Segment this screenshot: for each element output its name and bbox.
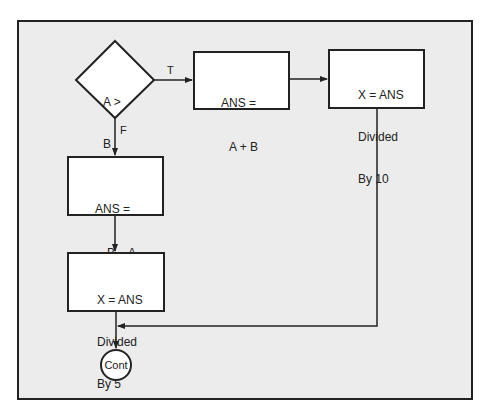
process-line-1: X = ANS	[97, 293, 143, 307]
process-line-1: X = ANS	[358, 88, 404, 102]
process-line-1: ANS =	[221, 96, 258, 110]
process-ans-a-plus-b: ANS = A + B	[193, 51, 290, 110]
continue-connector: Cont	[100, 349, 132, 381]
decision-label: A > B	[103, 67, 121, 165]
true-branch-label: T	[167, 64, 174, 76]
process-line-2: A + B	[221, 140, 258, 154]
process-line-3: By 10	[358, 172, 404, 186]
process-line-1: ANS =	[95, 202, 136, 216]
decision-line-2: B	[103, 137, 121, 151]
process-x-divided-by-10: X = ANS Divided By 10	[328, 49, 425, 109]
process-x-divided-by-5: X = ANS Divided By 5	[67, 252, 165, 312]
process-line-2: Divided	[358, 130, 404, 144]
decision-line-1: A >	[103, 95, 121, 109]
false-branch-label: F	[120, 124, 127, 136]
process-line-2: Divided	[97, 335, 143, 349]
process-ans-b-minus-a: ANS = B − A	[67, 156, 164, 216]
